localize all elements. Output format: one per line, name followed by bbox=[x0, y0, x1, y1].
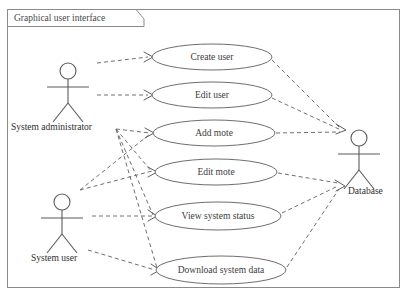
use-case-edit-mote[interactable]: Edit mote bbox=[155, 159, 277, 185]
actor-label: System user bbox=[31, 253, 78, 263]
use-case-download-system-data[interactable]: Download system data bbox=[156, 256, 286, 284]
frame-label: Graphical user interface bbox=[14, 13, 105, 23]
use-case-label: Edit user bbox=[195, 90, 230, 100]
use-case-label: Add mote bbox=[195, 128, 233, 138]
use-case-add-mote[interactable]: Add mote bbox=[153, 120, 275, 146]
use-case-label: Edit mote bbox=[197, 167, 234, 177]
use-case-label: Download system data bbox=[178, 265, 265, 275]
use-case-diagram-canvas: Graphical user interface bbox=[0, 0, 408, 304]
diagram-svg: Graphical user interface bbox=[0, 0, 408, 304]
actor-head-icon bbox=[54, 194, 70, 210]
actor-head-icon bbox=[351, 130, 367, 146]
use-case-label: Create user bbox=[191, 52, 235, 62]
use-case-edit-user[interactable]: Edit user bbox=[152, 82, 272, 108]
use-case-create-user[interactable]: Create user bbox=[152, 44, 272, 70]
actor-head-icon bbox=[60, 63, 76, 79]
use-case-view-system-status[interactable]: View system status bbox=[155, 202, 281, 230]
actor-label: Database bbox=[348, 186, 383, 196]
actor-label: System administrator bbox=[11, 122, 93, 132]
use-case-label: View system status bbox=[182, 211, 255, 221]
